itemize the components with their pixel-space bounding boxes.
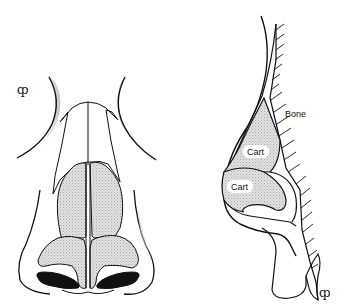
label-bone: Bone xyxy=(285,109,306,119)
lip xyxy=(306,254,320,300)
frontal-symbol: ȹ xyxy=(17,83,29,97)
ala-lobule xyxy=(262,228,306,298)
label-cart-upper: Cart xyxy=(247,147,265,157)
upper-lateral-cartilage xyxy=(224,98,280,172)
label-cart-lower: Cart xyxy=(231,182,249,192)
alar-step xyxy=(290,222,296,226)
lateral-symbol: ȹ xyxy=(319,286,331,300)
bone-line xyxy=(270,24,318,300)
nostril-left xyxy=(37,272,79,289)
nose-anatomy-diagram: ȹ Bone Cart Cart ȹ xyxy=(0,0,343,307)
nostril-right xyxy=(97,272,139,289)
brow-shadow-right xyxy=(118,77,151,150)
frontal-view xyxy=(17,77,156,294)
brow-curve-right xyxy=(118,77,156,160)
lateral-view xyxy=(222,16,320,300)
columella-base xyxy=(62,290,114,294)
